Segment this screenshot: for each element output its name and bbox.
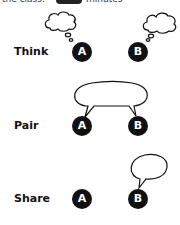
thought-cloud-icon-b <box>143 13 175 41</box>
student-a-think: A <box>72 42 92 62</box>
student-a-pair: A <box>72 116 92 136</box>
row-label-share: Share <box>14 192 50 205</box>
speech-bubble-icon-b <box>131 155 167 189</box>
student-b-share: B <box>128 189 148 209</box>
shared-speech-bubble-icon <box>75 82 148 118</box>
row-label-think: Think <box>14 45 48 58</box>
thought-cloud-icon-a <box>45 12 75 41</box>
row-label-pair: Pair <box>14 119 38 132</box>
student-b-pair: B <box>128 116 148 136</box>
student-a-share: A <box>72 189 92 209</box>
student-b-think: B <box>128 42 148 62</box>
